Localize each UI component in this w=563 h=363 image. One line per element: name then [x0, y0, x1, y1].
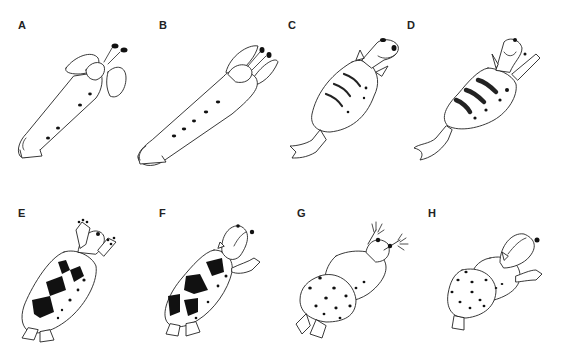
stage-g-drawing: [296, 222, 408, 338]
stage-h-drawing: [448, 234, 542, 330]
stage-e-drawing: [22, 219, 116, 342]
stage-b-drawing: [138, 46, 278, 166]
stage-d-drawing: [414, 38, 540, 160]
stage-c-drawing: [290, 38, 398, 158]
stage-f-drawing: [165, 224, 260, 336]
developmental-stages-figure: [0, 0, 563, 363]
stage-a-drawing: [18, 44, 127, 159]
